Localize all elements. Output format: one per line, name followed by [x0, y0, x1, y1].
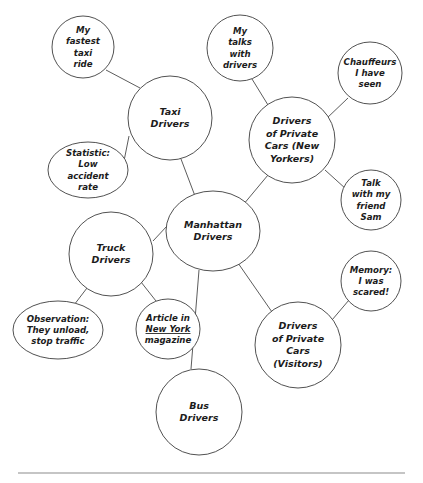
- connector-line: [153, 226, 167, 241]
- connector-line: [326, 98, 348, 119]
- node-label-line: Sam: [361, 211, 382, 221]
- node-label-line: Drivers: [151, 118, 190, 129]
- node-label-drivers-private-cars-new-yorkers: Driversof PrivateCars (NewYorkers): [265, 115, 320, 164]
- node-label-line: Drivers: [180, 412, 219, 423]
- node-label-line: Drivers: [194, 231, 233, 242]
- node-label-line: New York: [146, 324, 192, 334]
- node-label-line: Low: [78, 159, 97, 169]
- node-label-truck-drivers: TruckDrivers: [92, 241, 131, 265]
- node-truck-drivers[interactable]: TruckDrivers: [69, 212, 153, 296]
- node-label-line: Cars (New: [265, 140, 320, 151]
- node-label-line: They unload,: [27, 325, 90, 335]
- connector-line: [141, 282, 156, 301]
- node-chauffeurs-i-have-seen[interactable]: ChauffeursI haveseen: [338, 42, 402, 104]
- node-label-line: Manhattan: [184, 218, 242, 229]
- node-layer: ManhattanDriversTaxiDriversDriversof Pri…: [13, 15, 402, 455]
- node-label-line: Bus: [189, 399, 209, 410]
- node-label-line: Drivers: [279, 320, 318, 331]
- node-label-line: Article in: [145, 312, 190, 322]
- connector-line: [181, 159, 195, 196]
- node-label-line: Statistic:: [66, 148, 110, 158]
- node-article-in-new-york-magazine[interactable]: Article inNew Yorkmagazine: [136, 299, 200, 359]
- node-label-line: I have: [355, 68, 385, 78]
- connector-line: [74, 288, 87, 305]
- node-label-line: of Private: [266, 127, 319, 138]
- node-label-line: Observation:: [27, 313, 90, 323]
- node-label-line: My: [76, 25, 91, 35]
- node-label-line: I was: [358, 276, 383, 286]
- node-label-line: drivers: [223, 59, 257, 69]
- node-statistic-low-accident-rate[interactable]: Statistic:Lowaccidentrate: [48, 142, 128, 198]
- node-label-line: of Private: [272, 332, 325, 343]
- node-label-line: with my: [352, 189, 391, 199]
- node-label-line: Chauffeurs: [344, 56, 397, 66]
- node-label-observation-they-unload-stop-traffic: Observation:They unload,stop traffic: [27, 313, 90, 345]
- node-memory-i-was-scared[interactable]: Memory:I wasscared!: [341, 251, 401, 311]
- node-label-line: (Visitors): [273, 357, 322, 368]
- node-label-line: talks: [228, 37, 252, 47]
- node-label-line: magazine: [145, 335, 192, 345]
- node-bus-drivers[interactable]: BusDrivers: [156, 369, 242, 455]
- node-label-line: seen: [359, 79, 382, 89]
- node-my-talks-with-drivers[interactable]: Mytalkswithdrivers: [207, 15, 273, 81]
- node-drivers-private-cars-new-yorkers[interactable]: Driversof PrivateCars (NewYorkers): [249, 97, 335, 183]
- node-label-line: scared!: [353, 287, 389, 297]
- node-label-line: fastest: [66, 36, 101, 46]
- node-label-line: My: [233, 26, 248, 36]
- node-label-line: Cars: [286, 345, 310, 356]
- connector-line: [252, 79, 268, 105]
- node-label-line: stop traffic: [31, 336, 84, 346]
- node-label-line: Taxi: [159, 105, 181, 116]
- node-label-line: ride: [73, 58, 92, 68]
- node-label-line: accident: [67, 170, 109, 180]
- node-taxi-drivers[interactable]: TaxiDrivers: [128, 76, 212, 160]
- node-label-line: Memory:: [350, 264, 393, 274]
- connector-line: [238, 263, 272, 312]
- node-label-line: Yorkers): [270, 152, 314, 163]
- connector-line: [106, 70, 140, 88]
- node-label-line: Drivers: [92, 254, 131, 265]
- node-label-line: Truck: [97, 241, 127, 252]
- node-label-line: Drivers: [273, 115, 312, 126]
- connector-line: [332, 300, 349, 320]
- connector-line: [243, 175, 268, 205]
- node-drivers-private-cars-visitors[interactable]: Driversof PrivateCars(Visitors): [255, 302, 341, 388]
- node-my-fastest-taxi-ride[interactable]: Myfastesttaxiride: [52, 16, 114, 78]
- node-talk-with-my-friend-sam[interactable]: Talkwith myfriendSam: [341, 170, 401, 230]
- mindmap-diagram: ManhattanDriversTaxiDriversDriversof Pri…: [0, 0, 423, 483]
- node-label-line: friend: [356, 200, 386, 210]
- node-label-article-in-new-york-magazine: Article inNew Yorkmagazine: [145, 312, 192, 344]
- node-observation-they-unload-stop-traffic[interactable]: Observation:They unload,stop traffic: [13, 301, 103, 359]
- node-label-line: Talk: [361, 178, 382, 188]
- node-label-line: taxi: [74, 47, 93, 57]
- node-label-line: rate: [78, 181, 98, 191]
- mindmap-canvas: ManhattanDriversTaxiDriversDriversof Pri…: [0, 0, 423, 483]
- connector-line: [124, 136, 129, 161]
- connector-line: [325, 170, 346, 189]
- node-manhattan-drivers[interactable]: ManhattanDrivers: [166, 191, 260, 271]
- node-label-line: with: [229, 48, 250, 58]
